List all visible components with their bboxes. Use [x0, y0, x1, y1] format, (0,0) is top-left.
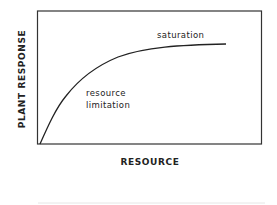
annotation-limitation: limitation	[86, 100, 130, 110]
plot-frame	[38, 11, 262, 144]
y-axis-label: PLANT RESPONSE	[17, 30, 27, 128]
chart-figure: saturation resource limitation RESOURCE …	[0, 0, 277, 205]
response-curve	[40, 44, 226, 144]
annotation-resource: resource	[86, 88, 126, 98]
x-axis-label: RESOURCE	[120, 157, 179, 167]
annotation-saturation: saturation	[157, 30, 204, 40]
chart-canvas: saturation resource limitation RESOURCE …	[0, 0, 277, 205]
